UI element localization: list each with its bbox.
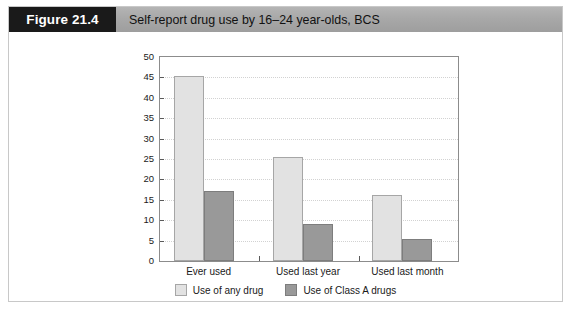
- legend-entry: Use of any drug: [175, 284, 264, 296]
- y-tick-mark: [160, 159, 164, 160]
- y-tick-label: 35: [132, 112, 154, 123]
- y-tick-label: 50: [132, 51, 154, 62]
- y-tick-mark: [160, 220, 164, 221]
- figure-container: Figure 21.4 Self-report drug use by 16–2…: [8, 6, 563, 302]
- gridline: [160, 118, 458, 119]
- bar: [273, 157, 303, 261]
- x-category-label: Used last month: [371, 266, 443, 277]
- x-tick-mark: [259, 256, 260, 261]
- y-tick-mark: [160, 139, 164, 140]
- bar: [303, 224, 333, 261]
- gridline: [160, 179, 458, 180]
- x-category-label: Used last year: [276, 266, 340, 277]
- legend-entry: Use of Class A drugs: [285, 284, 396, 296]
- y-tick-label: 45: [132, 71, 154, 82]
- y-tick-label: 0: [132, 255, 154, 266]
- y-tick-mark: [160, 118, 164, 119]
- y-tick-label: 10: [132, 214, 154, 225]
- bar: [372, 195, 402, 261]
- x-tick-mark: [359, 256, 360, 261]
- figure-number-label: Figure 21.4: [26, 12, 98, 27]
- legend-swatch-icon: [285, 284, 297, 296]
- figure-number-badge: Figure 21.4: [9, 7, 116, 32]
- gridline: [160, 98, 458, 99]
- bar: [204, 191, 234, 261]
- gridline: [160, 159, 458, 160]
- chart-legend: Use of any drugUse of Class A drugs: [9, 284, 562, 296]
- figure-title: Self-report drug use by 16–24 year-olds,…: [129, 7, 380, 32]
- figure-header: Figure 21.4 Self-report drug use by 16–2…: [9, 7, 562, 32]
- y-tick-mark: [160, 77, 164, 78]
- legend-label: Use of Class A drugs: [303, 285, 396, 296]
- gridline: [160, 139, 458, 140]
- chart-body: Percentage Use of any drugUse of Class A…: [9, 32, 562, 301]
- legend-swatch-icon: [175, 284, 187, 296]
- bar: [402, 239, 432, 261]
- y-tick-label: 20: [132, 173, 154, 184]
- y-tick-mark: [160, 98, 164, 99]
- legend-label: Use of any drug: [193, 285, 264, 296]
- y-tick-label: 25: [132, 153, 154, 164]
- y-tick-mark: [160, 179, 164, 180]
- y-tick-label: 15: [132, 193, 154, 204]
- y-tick-label: 30: [132, 132, 154, 143]
- y-tick-label: 40: [132, 91, 154, 102]
- bar: [174, 76, 204, 261]
- x-category-label: Ever used: [186, 266, 231, 277]
- gridline: [160, 77, 458, 78]
- plot-area: [159, 56, 459, 262]
- y-tick-mark: [160, 241, 164, 242]
- y-tick-mark: [160, 200, 164, 201]
- y-tick-label: 5: [132, 234, 154, 245]
